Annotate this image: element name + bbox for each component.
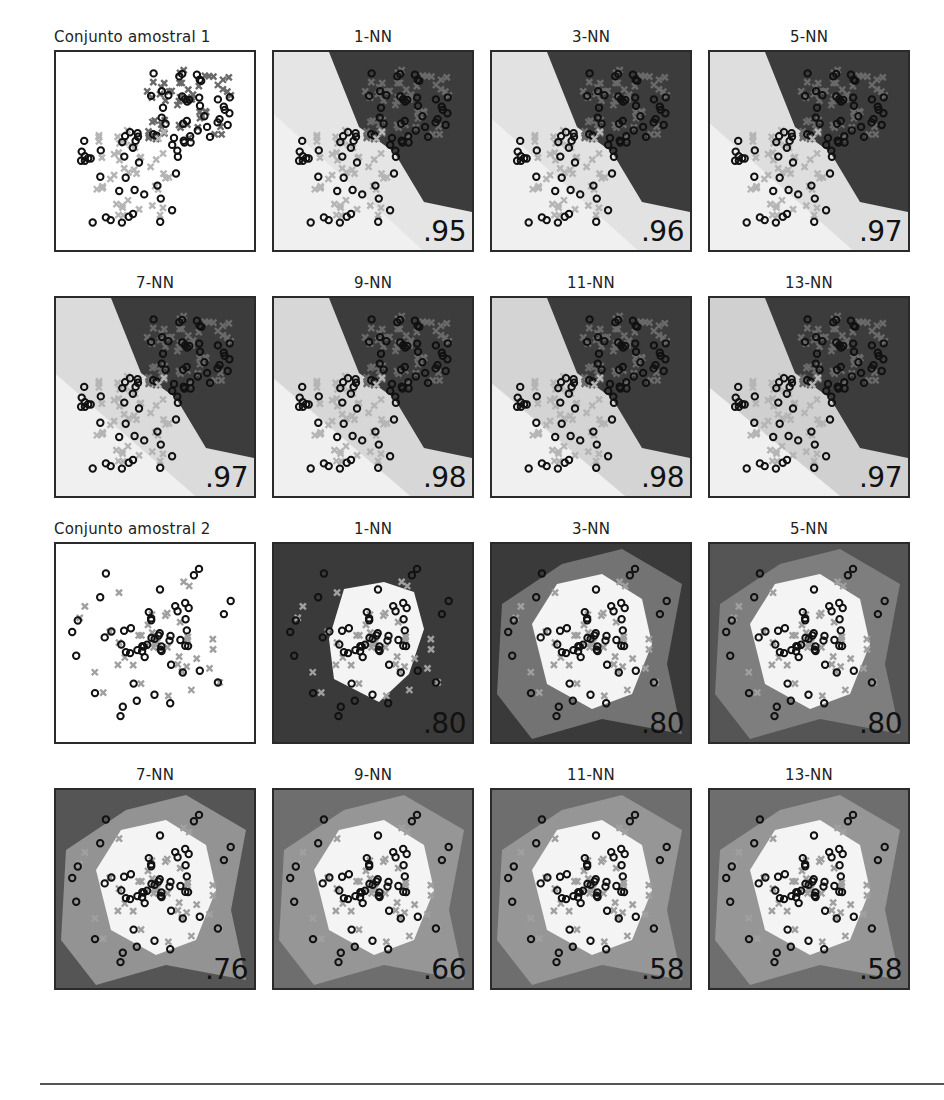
accuracy-score: .96 <box>641 215 684 248</box>
panel-title: Conjunto amostral 1 <box>54 24 256 50</box>
panel-title: 3-NN <box>490 24 692 50</box>
scatter-plot: .95 <box>272 50 474 252</box>
accuracy-score: .58 <box>859 953 902 986</box>
accuracy-score: .80 <box>859 707 902 740</box>
plot-panel: 13-NN .97 <box>708 270 910 498</box>
scatter-plot: .97 <box>54 296 256 498</box>
plot-panel: 11-NN .98 <box>490 270 692 498</box>
scatter-plot: .98 <box>272 296 474 498</box>
panel-title: 7-NN <box>54 270 256 296</box>
scatter-plot: .97 <box>708 50 910 252</box>
accuracy-score: .98 <box>423 461 466 494</box>
plot-panel: 3-NN.80 <box>490 516 692 744</box>
plot-panel: 5-NN .97 <box>708 24 910 252</box>
scatter-plot <box>54 50 256 252</box>
scatter-plot: .98 <box>490 296 692 498</box>
scatter-plot: .96 <box>490 50 692 252</box>
scatter-plot: .76 <box>54 788 256 990</box>
plot-panel: 1-NN.80 <box>272 516 474 744</box>
scatter-plot: .58 <box>708 788 910 990</box>
panel-title: 5-NN <box>708 516 910 542</box>
figure-row: Conjunto amostral 21-NN.803-NN.805-NN.80 <box>54 516 886 744</box>
plot-panel: 1-NN .95 <box>272 24 474 252</box>
panel-title: 1-NN <box>272 24 474 50</box>
panel-title: Conjunto amostral 2 <box>54 516 256 542</box>
accuracy-score: .98 <box>641 461 684 494</box>
panel-title: 11-NN <box>490 762 692 788</box>
scatter-plot: .58 <box>490 788 692 990</box>
accuracy-score: .66 <box>423 953 466 986</box>
plot-panel: 9-NN .98 <box>272 270 474 498</box>
accuracy-score: .97 <box>859 215 902 248</box>
decision-region-chart <box>56 52 254 250</box>
panel-title: 3-NN <box>490 516 692 542</box>
figure-grid: Conjunto amostral 11-NN .953-NN .965-NN … <box>54 24 886 1008</box>
panel-title: 1-NN <box>272 516 474 542</box>
scatter-plot: .97 <box>708 296 910 498</box>
bottom-rule <box>40 1083 944 1085</box>
plot-panel: 11-NN.58 <box>490 762 692 990</box>
plot-panel: 7-NN .97 <box>54 270 256 498</box>
scatter-plot: .80 <box>272 542 474 744</box>
scatter-plot: .80 <box>490 542 692 744</box>
accuracy-score: .80 <box>423 707 466 740</box>
figure-row: 7-NN.769-NN.6611-NN.5813-NN.58 <box>54 762 886 990</box>
scatter-plot: .80 <box>708 542 910 744</box>
panel-title: 13-NN <box>708 762 910 788</box>
panel-title: 9-NN <box>272 762 474 788</box>
plot-panel: 5-NN.80 <box>708 516 910 744</box>
accuracy-score: .58 <box>641 953 684 986</box>
accuracy-score: .80 <box>641 707 684 740</box>
panel-title: 9-NN <box>272 270 474 296</box>
figure-row: 7-NN .979-NN .9811-NN .9813-NN .97 <box>54 270 886 498</box>
accuracy-score: .95 <box>423 215 466 248</box>
figure-row: Conjunto amostral 11-NN .953-NN .965-NN … <box>54 24 886 252</box>
plot-panel: Conjunto amostral 1 <box>54 24 256 252</box>
accuracy-score: .97 <box>205 461 248 494</box>
scatter-plot <box>54 542 256 744</box>
panel-title: 5-NN <box>708 24 910 50</box>
panel-title: 13-NN <box>708 270 910 296</box>
plot-panel: 9-NN.66 <box>272 762 474 990</box>
accuracy-score: .76 <box>205 953 248 986</box>
panel-title: 7-NN <box>54 762 256 788</box>
scatter-plot: .66 <box>272 788 474 990</box>
plot-panel: 13-NN.58 <box>708 762 910 990</box>
plot-panel: Conjunto amostral 2 <box>54 516 256 744</box>
plot-panel: 3-NN .96 <box>490 24 692 252</box>
accuracy-score: .97 <box>859 461 902 494</box>
panel-title: 11-NN <box>490 270 692 296</box>
decision-region-chart <box>56 544 254 742</box>
plot-panel: 7-NN.76 <box>54 762 256 990</box>
